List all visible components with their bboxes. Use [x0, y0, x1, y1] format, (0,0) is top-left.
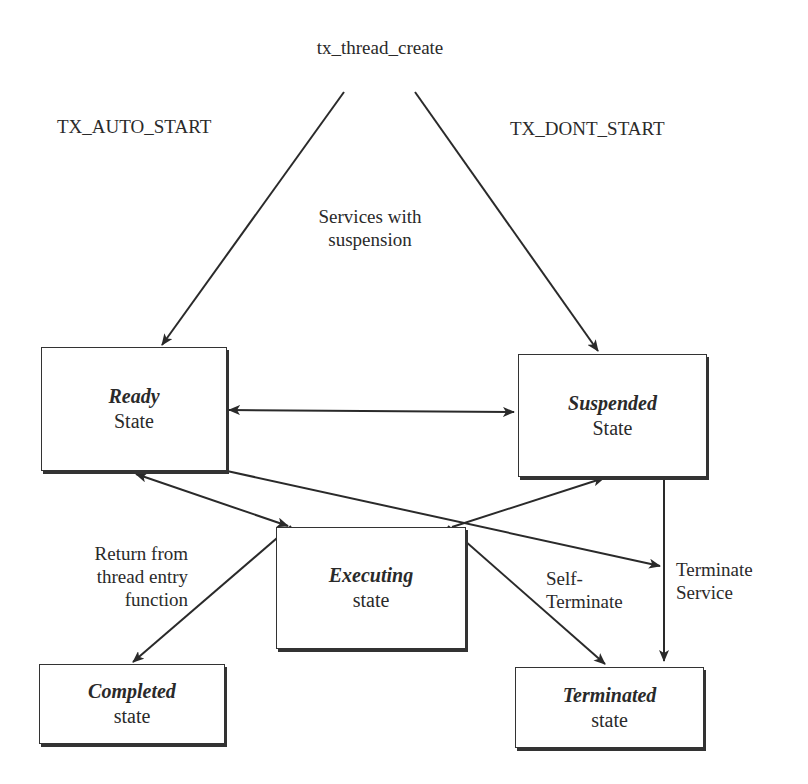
label-dont-start: TX_DONT_START [510, 117, 665, 140]
arrow-self-suspend [452, 478, 604, 527]
arrow-thread-scheduling [136, 474, 288, 526]
state-executing-subtitle: state [277, 588, 465, 613]
arrow-services-with-suspension [229, 410, 514, 412]
label-self-terminate: Self- Terminate [546, 567, 623, 613]
state-suspended-title: Suspended [519, 391, 706, 416]
label-auto-start: TX_AUTO_START [57, 115, 211, 138]
state-terminated-subtitle: state [516, 708, 703, 733]
state-terminated: Terminated state [515, 667, 704, 748]
state-suspended: Suspended State [518, 354, 707, 477]
state-terminated-title: Terminated [516, 683, 703, 708]
state-ready: Ready State [41, 347, 227, 471]
state-executing-title: Executing [277, 563, 465, 588]
state-suspended-subtitle: State [519, 416, 706, 441]
label-services-with-suspension: Services with suspension [300, 205, 440, 251]
label-return-from-entry: Return from thread entry function [40, 542, 188, 611]
state-ready-subtitle: State [42, 409, 226, 434]
start-label: tx_thread_create [290, 36, 470, 59]
label-terminate-service: Terminate Service [676, 558, 753, 604]
state-ready-title: Ready [42, 384, 226, 409]
state-executing: Executing state [276, 527, 466, 649]
state-completed-subtitle: state [40, 704, 224, 729]
state-completed: Completed state [39, 664, 225, 744]
state-completed-title: Completed [40, 679, 224, 704]
